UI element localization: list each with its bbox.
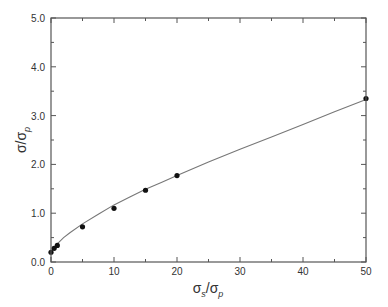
data-point (174, 173, 179, 178)
data-point (111, 206, 116, 211)
data-point (55, 243, 60, 248)
plot-frame (51, 18, 366, 262)
y-tick-label: 0.0 (31, 257, 45, 268)
fit-curve (51, 100, 366, 253)
tick-labels: 010203040500.01.02.03.04.05.0 (31, 13, 372, 277)
x-tick-label: 10 (108, 266, 120, 277)
x-tick-label: 20 (171, 266, 183, 277)
x-tick-label: 50 (360, 266, 372, 277)
data-point (143, 188, 148, 193)
y-tick-label: 4.0 (31, 62, 45, 73)
y-tick-label: 2.0 (31, 159, 45, 170)
data-points (48, 96, 368, 255)
chart: 010203040500.01.02.03.04.05.0 σs/σp σ/σp (0, 0, 388, 307)
x-tick-label: 40 (297, 266, 309, 277)
y-tick-label: 3.0 (31, 111, 45, 122)
data-point (80, 224, 85, 229)
x-axis-label: σs/σp (193, 280, 224, 299)
y-tick-label: 5.0 (31, 13, 45, 24)
axis-ticks (51, 18, 366, 262)
y-axis-label: σ/σp (13, 127, 32, 153)
x-tick-label: 30 (234, 266, 246, 277)
x-tick-label: 0 (48, 266, 54, 277)
y-tick-label: 1.0 (31, 208, 45, 219)
